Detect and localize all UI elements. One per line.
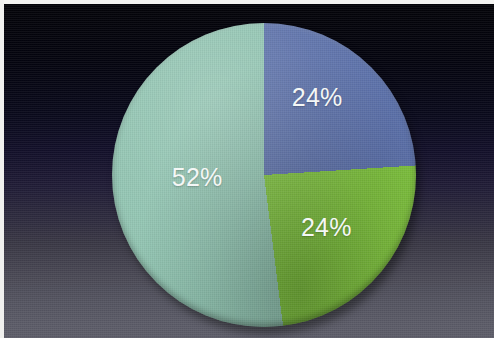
pie-label-blue: 24% [292,85,343,110]
pie-label-teal: 52% [172,164,223,189]
photo-border-top [0,0,494,4]
pie-label-green: 24% [301,214,352,239]
pie-slice-teal[interactable] [112,23,416,327]
photo-border-left [0,0,4,338]
pie-chart[interactable] [112,23,416,327]
pie-chart-figure: 24% 24% 52% [0,0,494,338]
pie-disc [112,23,416,327]
